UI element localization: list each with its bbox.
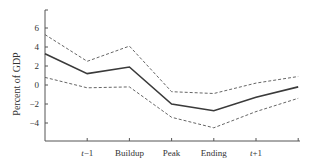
x-tick-label: Ending <box>201 148 227 158</box>
x-axis: t−1BuildupPeakEndingt+1 <box>45 138 300 158</box>
y-tick-label: 4 <box>35 42 40 52</box>
x-tick-label: t−1 <box>81 148 93 158</box>
y-axis: −4−20246 <box>29 10 48 141</box>
y-tick-label: 2 <box>35 61 40 71</box>
line-chart: −4−20246 t−1BuildupPeakEndingt+1 Percent… <box>0 0 311 165</box>
x-tick-label: Buildup <box>115 148 145 158</box>
series-line-upper-bound <box>45 35 298 94</box>
y-axis-title: Percent of GDP <box>11 52 22 116</box>
x-tick-label: t+1 <box>250 148 262 158</box>
y-tick-label: −4 <box>29 118 39 128</box>
x-tick-label: Peak <box>163 148 181 158</box>
y-tick-label: 0 <box>35 80 40 90</box>
y-tick-label: −2 <box>29 99 39 109</box>
series-line-lower-bound <box>45 77 298 127</box>
y-tick-label: 6 <box>35 23 40 33</box>
series-layer <box>45 35 298 128</box>
